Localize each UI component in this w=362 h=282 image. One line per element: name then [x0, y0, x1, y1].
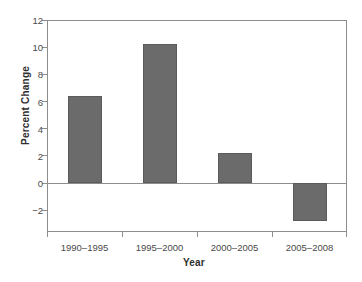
- y-tick-label: 12: [32, 15, 43, 26]
- plot-area: 121086420−2 1990–19951995–20002000–20052…: [47, 20, 347, 232]
- bar: [68, 96, 102, 183]
- bar: [143, 44, 177, 183]
- y-axis-title: Percent Change: [20, 36, 31, 176]
- y-tick-label: 4: [38, 123, 43, 134]
- y-tick-label: −2: [32, 205, 43, 216]
- x-tick-label: 1990–1995: [61, 242, 109, 253]
- y-tick-label: 6: [38, 96, 43, 107]
- y-tick-label: 2: [38, 150, 43, 161]
- y-tick-label: 8: [38, 69, 43, 80]
- x-tick-label: 2000–2005: [211, 242, 259, 253]
- x-tick-mark: [272, 232, 273, 237]
- x-tick-label: 1995–2000: [136, 242, 184, 253]
- x-tick-mark: [122, 232, 123, 237]
- plot-frame-top: [47, 20, 347, 21]
- y-tick-label: 10: [32, 42, 43, 53]
- y-axis-line: [47, 20, 48, 232]
- x-tick-mark: [47, 232, 48, 237]
- bar: [218, 153, 252, 183]
- x-tick-mark: [197, 232, 198, 237]
- bar-chart-figure: Percent Change Year 121086420−2 1990–199…: [0, 0, 362, 282]
- y-tick-label: 0: [38, 178, 43, 189]
- plot-frame-right: [346, 20, 347, 232]
- x-tick-mark: [346, 232, 347, 237]
- x-tick-label: 2005–2008: [286, 242, 334, 253]
- x-axis-title: Year: [41, 257, 347, 268]
- bar: [293, 183, 327, 221]
